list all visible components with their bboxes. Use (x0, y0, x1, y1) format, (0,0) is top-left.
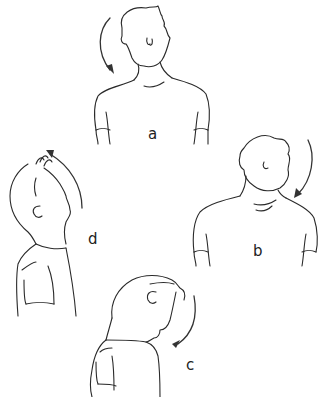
label-c: c (186, 358, 194, 373)
label-b: b (253, 244, 263, 259)
figure-a (95, 6, 210, 144)
neck-exercise-illustration: a b c d (0, 0, 320, 397)
illustration-drawing (0, 0, 320, 397)
label-a: a (148, 127, 157, 142)
label-d: d (88, 232, 98, 247)
figure-c (91, 276, 196, 397)
figure-d (10, 150, 82, 316)
